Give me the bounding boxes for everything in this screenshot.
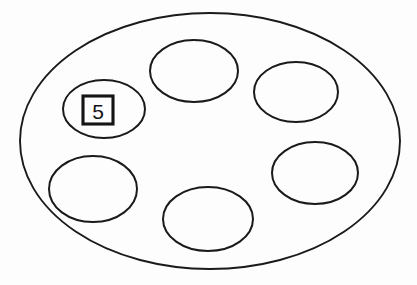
- diagram-canvas: 5: [0, 0, 417, 285]
- inner-ellipse-right-middle[interactable]: [272, 142, 358, 204]
- line-diagram: 5: [0, 0, 417, 285]
- outer-boundary-ellipse: [20, 13, 400, 269]
- inner-ellipse-bottom-center[interactable]: [163, 187, 253, 251]
- inner-ellipse-lower-left[interactable]: [49, 156, 137, 222]
- inner-ellipse-top-center[interactable]: [150, 40, 238, 102]
- label-box-digit: 5: [92, 100, 104, 123]
- inner-ellipse-top-right[interactable]: [254, 62, 338, 122]
